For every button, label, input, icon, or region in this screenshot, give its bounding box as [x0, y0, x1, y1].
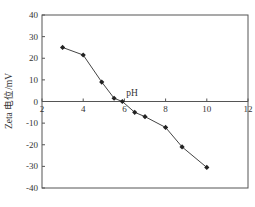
x-tick-label: 4 [81, 104, 86, 114]
y-tick-label: 30 [29, 32, 39, 42]
y-axis-title: Zeta 电位/mV [3, 73, 14, 129]
data-point-marker [142, 114, 147, 119]
y-tick-label: -10 [26, 118, 38, 128]
y-tick-label: 40 [29, 10, 39, 20]
y-tick-label: -40 [26, 183, 38, 193]
data-point-marker [60, 45, 65, 50]
y-tick-label: -30 [26, 161, 38, 171]
x-tick-label: 10 [202, 104, 212, 114]
zeta-potential-chart: 403020100-10-20-30-40 24681012 pH Zeta 电… [0, 0, 255, 207]
x-axis-ticks: 24681012 [40, 99, 253, 114]
x-axis-title: pH [126, 88, 138, 98]
x-tick-label: 2 [40, 104, 45, 114]
y-tick-label: 0 [34, 97, 39, 107]
y-tick-label: 20 [29, 53, 39, 63]
x-tick-label: 8 [163, 104, 168, 114]
y-tick-label: -20 [26, 140, 38, 150]
x-tick-label: 12 [244, 104, 253, 114]
y-tick-label: 10 [29, 75, 39, 85]
